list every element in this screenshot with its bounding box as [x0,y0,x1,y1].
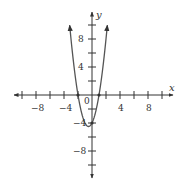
y-tick-label-8: 8 [78,34,84,44]
y-tick-label-neg8: −8 [73,146,87,156]
x-tick-label-4: 4 [118,103,124,113]
y-axis-label: y [95,9,102,20]
key-point [90,121,93,124]
key-point [97,93,100,96]
origin-label: 0 [84,96,90,106]
y-tick-label-4: 4 [78,62,84,72]
x-tick-label-neg4: −4 [59,103,73,113]
key-point [76,93,79,96]
parabola-curve [70,25,108,126]
x-tick-label-8: 8 [146,103,152,113]
y-tick-label-neg4: −4 [73,118,87,128]
x-axis-label: x [169,82,175,93]
x-tick-label-neg8: −8 [31,103,45,113]
parabola-graph: x y 0 −8 −4 4 8 8 4 −4 −8 [0,0,184,185]
